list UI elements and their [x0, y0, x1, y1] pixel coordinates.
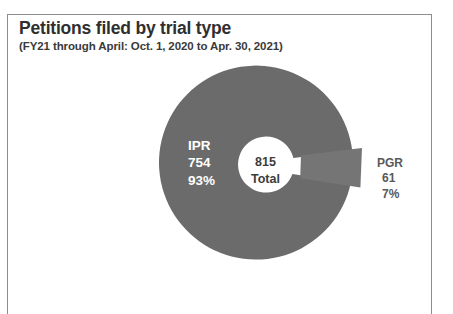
slice-label-pgr-name: PGR — [377, 156, 403, 171]
slice-label-pgr-count: 61 — [377, 171, 403, 186]
slice-label-ipr-count: 754 — [188, 154, 215, 171]
slice-label-ipr: IPR 754 93% — [188, 137, 215, 189]
slice-label-pgr-percent: 7% — [377, 187, 403, 202]
slice-label-ipr-percent: 93% — [188, 172, 215, 189]
donut-center-caption: Total — [237, 171, 294, 188]
donut-center-label: 815 Total — [237, 154, 294, 188]
slice-label-pgr: PGR 61 7% — [377, 156, 403, 202]
donut-center-value: 815 — [237, 154, 294, 171]
slice-label-ipr-name: IPR — [188, 137, 215, 154]
